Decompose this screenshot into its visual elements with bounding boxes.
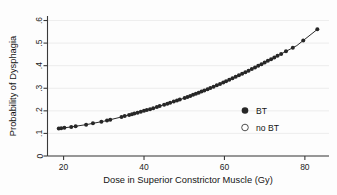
legend-marker-bt [242,107,249,114]
x-tick-label: 80 [300,162,310,172]
probability-of-dysphagia-chart: 0.1.2.3.4.5.6 Probability of Dysphagia 2… [0,0,337,195]
y-tick-label: .5 [35,39,45,46]
data-point-bt [158,104,162,108]
legend-marker-nobt [242,124,249,131]
data-point-bt [108,118,112,122]
y-tick-label: .6 [35,17,45,24]
chart-background [0,0,337,195]
data-point-bt [151,106,155,110]
y-tick-label: .4 [35,62,45,69]
y-axis-title: Probability of Dysphagia [8,35,18,136]
data-point-bt [291,46,295,50]
data-point-bt [69,125,73,129]
data-point-bt [168,101,172,105]
data-point-bt [276,54,280,58]
data-point-bt [74,124,78,128]
x-tick-label: 40 [139,162,149,172]
y-tick-label: .3 [35,84,45,91]
legend-label-nobt: no BT [256,123,280,133]
x-tick-label: 60 [220,162,230,172]
legend-label-bt: BT [256,106,268,116]
y-tick-label: .1 [35,130,45,137]
x-axis-title: Dose in Superior Constrictor Muscle (Gy) [103,175,272,185]
data-point-bt [62,126,66,130]
y-tick-label: 0 [35,153,45,158]
data-point-bt [284,49,288,53]
data-point-bt [279,52,283,56]
data-point-bt [315,27,319,31]
data-point-bt [123,114,127,118]
data-point-bt [301,39,305,43]
data-point-bt [99,120,103,124]
x-tick-label: 20 [59,162,69,172]
y-tick-label: .2 [35,107,45,114]
data-point-bt [91,121,95,125]
data-point-bt [178,98,182,102]
chart-figure: 0.1.2.3.4.5.6 Probability of Dysphagia 2… [0,0,337,195]
data-point-bt [84,123,88,127]
